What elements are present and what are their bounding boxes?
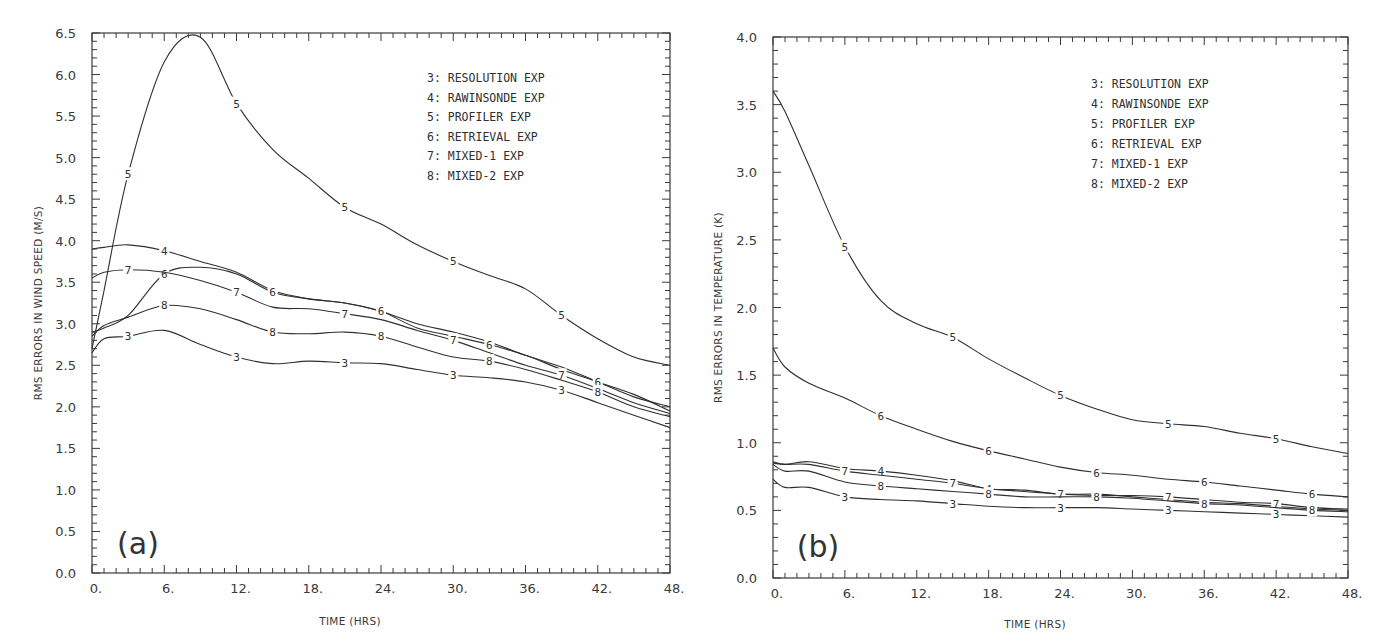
y-tick-label: 1.0 (55, 483, 76, 498)
legend-entry: 3: RESOLUTION EXP (1091, 77, 1209, 91)
y-axis-title: RMS ERRORS IN WIND SPEED (M/S) (32, 206, 44, 400)
curve-label: 5 (233, 98, 240, 111)
x-tick-label: 42. (1270, 586, 1291, 601)
x-tick-label: 24. (375, 581, 396, 596)
x-tick-label: 12. (910, 586, 931, 601)
curve-label: 6 (486, 339, 493, 352)
curve-label: 3 (342, 357, 349, 370)
x-tick-label: 18. (302, 581, 323, 596)
curve-label: 4 (878, 465, 885, 478)
curve-label: 8 (1309, 504, 1316, 517)
curve-label: 5 (450, 255, 457, 268)
x-tick-label: 0. (90, 581, 102, 596)
legend-entry: 6: RETRIEVAL EXP (427, 130, 538, 144)
curve-label: 5 (125, 168, 132, 181)
curve-label: 6 (378, 305, 385, 318)
x-tick-label: 24. (1054, 586, 1075, 601)
y-tick-label: 6.5 (55, 26, 76, 41)
x-tick-label: 18. (982, 586, 1003, 601)
x-tick-label: 30. (1126, 586, 1147, 601)
curve-label: 6 (1093, 467, 1100, 480)
y-tick-label: 6.0 (55, 68, 76, 83)
x-tick-label: 0. (771, 586, 783, 601)
legend-entry: 5: PROFILER EXP (1091, 117, 1195, 131)
panel-label: (a) (117, 526, 159, 561)
x-tick-label: 36. (1198, 586, 1219, 601)
series-line (92, 330, 670, 427)
x-tick-label: 6. (162, 581, 174, 596)
curve-label: 7 (233, 286, 240, 299)
curve-label: 3 (1057, 502, 1064, 515)
y-tick-label: 1.0 (736, 436, 757, 451)
series-line (92, 305, 670, 417)
y-tick-label: 2.5 (55, 358, 76, 373)
curve-label: 8 (985, 488, 992, 501)
y-tick-label: 2.0 (736, 301, 757, 316)
curve-label: 6 (878, 410, 885, 423)
curve-label: 8 (878, 480, 885, 493)
x-tick-label: 36. (519, 581, 540, 596)
curve-label: 5 (342, 201, 349, 214)
curve-label: 7 (842, 465, 849, 478)
curve-label: 6 (985, 445, 992, 458)
x-tick-label: 48. (664, 581, 685, 596)
curve-label: 7 (342, 308, 349, 321)
curve-label: 3 (233, 351, 240, 364)
curve-label: 3 (450, 369, 457, 382)
legend-entry: 6: RETRIEVAL EXP (1091, 137, 1202, 151)
series-6: 66666 (773, 348, 1348, 501)
legend-entry: 5: PROFILER EXP (427, 110, 531, 124)
legend-entry: 4: RAWINSONDE EXP (1091, 97, 1209, 111)
legend: 3: RESOLUTION EXP4: RAWINSONDE EXP5: PRO… (427, 71, 545, 183)
series-5: 55555 (773, 91, 1348, 453)
y-tick-label: 2.0 (55, 400, 76, 415)
curve-label: 8 (1093, 491, 1100, 504)
curve-label: 5 (1057, 389, 1064, 402)
curve-label: 3 (842, 491, 849, 504)
curve-label: 5 (949, 331, 956, 344)
legend-entry: 8: MIXED-2 EXP (427, 169, 524, 183)
y-tick-label: 1.5 (736, 368, 757, 383)
legend: 3: RESOLUTION EXP4: RAWINSONDE EXP5: PRO… (1091, 77, 1209, 191)
x-tick-label: 6. (843, 586, 855, 601)
y-axis-title: RMS ERRORS IN TEMPERATURE (K) (712, 212, 724, 403)
y-tick-label: 0.5 (736, 503, 757, 518)
curve-label: 6 (1309, 488, 1316, 501)
panel-label: (b) (797, 529, 839, 564)
curve-label: 5 (842, 241, 849, 254)
figure: 0.6.12.18.24.30.36.42.48.0.00.51.01.52.0… (0, 0, 1386, 641)
legend-entry: 8: MIXED-2 EXP (1091, 177, 1188, 191)
curve-label: 7 (1165, 491, 1172, 504)
curve-label: 6 (1201, 476, 1208, 489)
curve-label: 4 (161, 245, 168, 258)
curve-label: 3 (949, 498, 956, 511)
curve-label: 5 (558, 309, 565, 322)
curve-label: 7 (1273, 498, 1280, 511)
curve-label: 8 (486, 355, 493, 368)
y-tick-label: 1.5 (55, 441, 76, 456)
legend-entry: 7: MIXED-1 EXP (427, 149, 524, 163)
legend-entry: 7: MIXED-1 EXP (1091, 157, 1188, 171)
curve-label: 6 (269, 286, 276, 299)
x-axis-title: TIME (HRS) (1003, 618, 1066, 630)
y-tick-label: 3.5 (736, 98, 757, 113)
chart-panel-a: 0.6.12.18.24.30.36.42.48.0.00.51.01.52.0… (32, 26, 684, 627)
y-tick-label: 2.5 (736, 233, 757, 248)
y-tick-label: 3.5 (55, 275, 76, 290)
curve-label: 8 (594, 386, 601, 399)
series-3: 33333 (92, 329, 670, 427)
y-tick-label: 3.0 (736, 165, 757, 180)
x-tick-label: 48. (1342, 586, 1363, 601)
curve-label: 3 (125, 330, 132, 343)
y-tick-label: 3.0 (55, 317, 76, 332)
curve-label: 5 (1165, 418, 1172, 431)
curve-label: 8 (378, 330, 385, 343)
y-tick-label: 0.0 (55, 566, 76, 581)
x-tick-label: 30. (447, 581, 468, 596)
curve-label: 8 (1201, 498, 1208, 511)
legend-entry: 4: RAWINSONDE EXP (427, 91, 545, 105)
curve-label: 8 (161, 299, 168, 312)
curve-label: 5 (1273, 433, 1280, 446)
y-tick-label: 0.5 (55, 524, 76, 539)
curve-label: 7 (125, 264, 132, 277)
